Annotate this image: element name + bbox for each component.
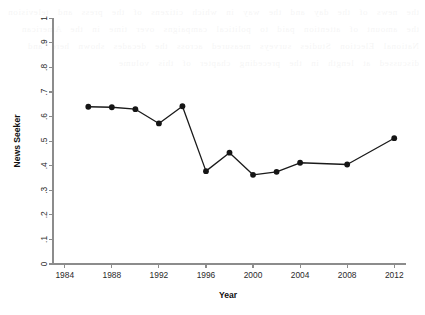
y-tick-label: .6 <box>39 113 49 120</box>
x-tick-label: 2000 <box>244 270 263 280</box>
x-tick-label: 2012 <box>385 270 404 280</box>
y-tick-label: 0 <box>39 261 49 266</box>
y-tick-label: .8 <box>39 64 49 71</box>
data-point-marker <box>250 172 256 178</box>
x-axis-ticks <box>65 264 394 268</box>
data-point-marker <box>85 104 91 110</box>
chart-figure: the news of the day and the way in which… <box>0 0 425 315</box>
y-tick-label: .5 <box>39 137 49 144</box>
x-tick-label: 2004 <box>291 270 310 280</box>
data-point-marker <box>227 150 233 156</box>
y-tick-label: 1 <box>39 16 49 21</box>
data-point-marker <box>203 168 209 174</box>
y-tick-label: .2 <box>39 211 49 218</box>
y-tick-label: .3 <box>39 186 49 193</box>
data-point-markers <box>85 103 397 177</box>
x-tick-label: 1996 <box>197 270 216 280</box>
data-point-marker <box>274 169 280 175</box>
x-tick-label: 1984 <box>55 270 74 280</box>
y-tick-label: .9 <box>39 39 49 46</box>
x-axis-tick-labels: 19841988199219962000200420082012 <box>55 270 403 280</box>
data-point-marker <box>132 106 138 112</box>
y-axis-tick-labels: 0.1.2.3.4.5.6.7.8.91 <box>39 16 49 267</box>
y-tick-label: .1 <box>39 236 49 243</box>
data-point-marker <box>109 104 115 110</box>
y-axis-ticks <box>49 18 53 264</box>
data-point-marker <box>156 121 162 127</box>
axes-group <box>53 18 406 264</box>
data-point-marker <box>180 103 186 109</box>
x-tick-label: 1988 <box>103 270 122 280</box>
data-point-marker <box>297 160 303 166</box>
line-chart-plot: 19841988199219962000200420082012 0.1.2.3… <box>0 0 425 315</box>
data-point-marker <box>391 135 397 141</box>
y-tick-label: .7 <box>39 88 49 95</box>
x-tick-label: 1992 <box>150 270 169 280</box>
y-axis-title: News Seeker <box>12 114 22 168</box>
data-point-marker <box>344 162 350 168</box>
y-tick-label: .4 <box>39 162 49 169</box>
x-tick-label: 2008 <box>338 270 357 280</box>
x-axis-title: Year <box>219 290 238 300</box>
